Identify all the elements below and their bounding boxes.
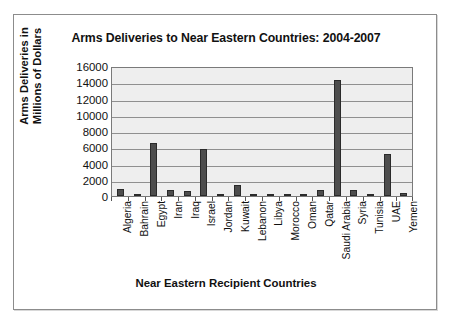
- y-axis-tick-label: 16000: [54, 61, 108, 73]
- x-label-cell: Libya: [262, 201, 279, 275]
- bar-uae[interactable]: [384, 154, 391, 196]
- x-axis-title: Near Eastern Recipient Countries: [14, 277, 438, 289]
- bar-iran[interactable]: [167, 190, 174, 196]
- bar-tunisia[interactable]: [367, 194, 374, 196]
- bar-saudi-arabia[interactable]: [334, 80, 341, 196]
- y-axis-title-line-1: Arms Deliveries in: [18, 11, 31, 141]
- bar-slot: [395, 68, 412, 196]
- bar-slot: [279, 68, 296, 196]
- bar-slot: [295, 68, 312, 196]
- bar-jordan[interactable]: [217, 194, 224, 196]
- y-axis-tick-label: 2000: [54, 175, 108, 187]
- bar-slot: [329, 68, 346, 196]
- y-axis-tick-label: 6000: [54, 142, 108, 154]
- y-axis-tick-label: 14000: [54, 77, 108, 89]
- bar-slot: [345, 68, 362, 196]
- bar-series: [112, 68, 412, 196]
- x-label-cell: Morocco: [279, 201, 296, 275]
- x-label-cell: Israel: [195, 201, 212, 275]
- y-axis-tick-label: 12000: [54, 94, 108, 106]
- bar-slot: [129, 68, 146, 196]
- x-label-cell: Bahrain: [128, 201, 145, 275]
- x-label-cell: Iraq: [178, 201, 195, 275]
- y-axis-title-line-2: Millions of Dollars: [31, 11, 44, 141]
- bar-slot: [212, 68, 229, 196]
- bar-slot: [195, 68, 212, 196]
- bar-bahrain[interactable]: [134, 194, 141, 196]
- bar-kuwait[interactable]: [234, 185, 241, 196]
- plot-area: [111, 67, 413, 197]
- bar-syria[interactable]: [350, 190, 357, 196]
- x-label-cell: Yemen: [396, 201, 413, 275]
- bar-slot: [162, 68, 179, 196]
- y-axis-tick-label: 8000: [54, 126, 108, 138]
- x-axis-label-yemen: Yemen: [409, 201, 419, 233]
- x-label-cell: Kuwait: [228, 201, 245, 275]
- x-label-cell: Iran: [161, 201, 178, 275]
- bar-slot: [229, 68, 246, 196]
- x-label-cell: Lebanon: [245, 201, 262, 275]
- bar-slot: [179, 68, 196, 196]
- y-axis-tick-label: 0: [54, 191, 108, 203]
- bar-slot: [379, 68, 396, 196]
- x-label-cell: Syria: [346, 201, 363, 275]
- bar-algeria[interactable]: [117, 189, 124, 196]
- x-label-cell: Saudi Arabia: [329, 201, 346, 275]
- bar-slot: [262, 68, 279, 196]
- bar-iraq[interactable]: [184, 191, 191, 196]
- bar-oman[interactable]: [300, 194, 307, 196]
- x-label-cell: Jordan: [212, 201, 229, 275]
- bar-israel[interactable]: [200, 149, 207, 196]
- bar-lebanon[interactable]: [250, 194, 257, 196]
- x-axis-category-labels: AlgeriaBahrainEgyptIranIraqIsraelJordanK…: [111, 201, 413, 275]
- bar-slot: [145, 68, 162, 196]
- bar-slot: [112, 68, 129, 196]
- x-label-cell: Tunisia: [363, 201, 380, 275]
- y-axis-tick-label: 10000: [54, 110, 108, 122]
- bar-slot: [362, 68, 379, 196]
- bar-morocco[interactable]: [284, 194, 291, 196]
- y-axis-tick-label: 4000: [54, 159, 108, 171]
- bar-slot: [245, 68, 262, 196]
- bar-yemen[interactable]: [400, 193, 407, 196]
- x-label-cell: Qatar: [312, 201, 329, 275]
- x-label-cell: Oman: [296, 201, 313, 275]
- bar-libya[interactable]: [267, 194, 274, 196]
- y-axis-tick-labels: 1600014000120001000080006000400020000: [54, 60, 108, 195]
- x-label-cell: UAE: [380, 201, 397, 275]
- bar-egypt[interactable]: [150, 143, 157, 196]
- y-axis-title: Arms Deliveries in Millions of Dollars: [18, 11, 44, 141]
- x-label-cell: Egypt: [145, 201, 162, 275]
- x-label-cell: Algeria: [111, 201, 128, 275]
- chart-figure-frame: Arms Deliveries to Near Eastern Countrie…: [13, 14, 437, 310]
- bar-qatar[interactable]: [317, 190, 324, 196]
- bar-slot: [312, 68, 329, 196]
- chart-title: Arms Deliveries to Near Eastern Countrie…: [14, 31, 438, 45]
